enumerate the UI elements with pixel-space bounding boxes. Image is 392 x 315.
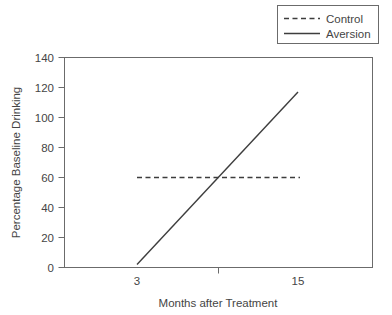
y-tick-label-60: 60 [41,172,54,184]
y-tick-label-80: 80 [41,142,54,154]
y-tick-label-20: 20 [41,232,54,244]
y-tick-label-120: 120 [35,82,54,94]
x-tick-label-15: 15 [292,275,305,287]
y-tick-label-40: 40 [41,202,54,214]
y-tick-label-0: 0 [48,262,54,274]
legend-label-aversion: Aversion [326,28,371,40]
line-chart: 0 20 40 60 80 100 120 140 Percentage Bas… [0,0,392,315]
y-tick-label-100: 100 [35,112,54,124]
y-tick-label-140: 140 [35,52,54,64]
legend: Control Aversion [278,6,379,44]
chart-figure: 0 20 40 60 80 100 120 140 Percentage Bas… [0,0,392,315]
x-tick-label-3: 3 [134,275,140,287]
x-axis-title: Months after Treatment [159,297,279,309]
legend-label-control: Control [326,13,363,25]
y-axis-title: Percentage Baseline Drinking [10,87,22,239]
